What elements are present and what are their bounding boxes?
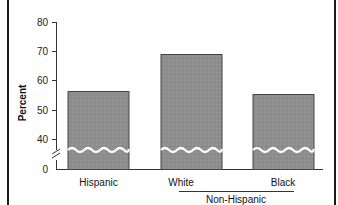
y-tick-70: 70 (37, 46, 49, 57)
y-ticks (52, 23, 57, 140)
y-tick-50: 50 (37, 105, 49, 116)
bar-hispanic (68, 92, 129, 170)
x-label-hispanic: Hispanic (79, 177, 117, 188)
y-tick-40: 40 (37, 134, 49, 145)
axis-break-icon (52, 149, 60, 158)
y-tick-60: 60 (37, 75, 49, 86)
x-label-white: White (168, 177, 194, 188)
y-tick-0: 0 (42, 164, 48, 175)
group-label-non-hispanic: Non-Hispanic (206, 194, 266, 205)
y-tick-80: 80 (37, 17, 49, 28)
y-axis-label: Percent (17, 84, 28, 121)
bar-black (253, 95, 314, 170)
x-label-black: Black (271, 177, 296, 188)
bar-chart: 80 70 60 50 40 0 Percent Hispanic White … (0, 0, 338, 205)
